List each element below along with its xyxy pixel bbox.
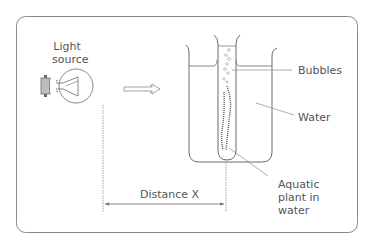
figure-frame: [17, 17, 172, 117]
panel-border: [17, 17, 172, 117]
aquatic-plant-label: Aquatic plant in water: [278, 178, 320, 217]
main-border: [17, 17, 171, 117]
frame-rect: [17, 16, 171, 117]
distance-label: Distance X: [140, 188, 199, 201]
visible-frame: [17, 17, 171, 117]
plant-label-line3: water: [278, 204, 320, 217]
water-label: Water: [298, 111, 331, 124]
light-bulb-icon: [41, 69, 93, 103]
rounded-frame: [17, 17, 171, 117]
outer-rounded-rect: [17, 17, 171, 117]
box: [17, 17, 172, 117]
light-label-line1: Light: [52, 40, 82, 53]
plant-label-line1: Aquatic: [278, 178, 320, 191]
frame-outline: [17, 17, 171, 117]
test-tube: [214, 35, 240, 160]
figure-outline: [17, 17, 171, 117]
frame-main: [17, 17, 171, 117]
light-source-label: Light source: [52, 40, 82, 66]
diagram-frame: Light source Bubbles Water Distance X Aq…: [0, 0, 374, 251]
diagram-border: [17, 17, 171, 117]
outer-border: [17, 17, 172, 18]
plant-label-line2: plant in: [278, 191, 320, 204]
bubbles-label: Bubbles: [298, 64, 342, 77]
light-label-line2: source: [52, 53, 82, 66]
